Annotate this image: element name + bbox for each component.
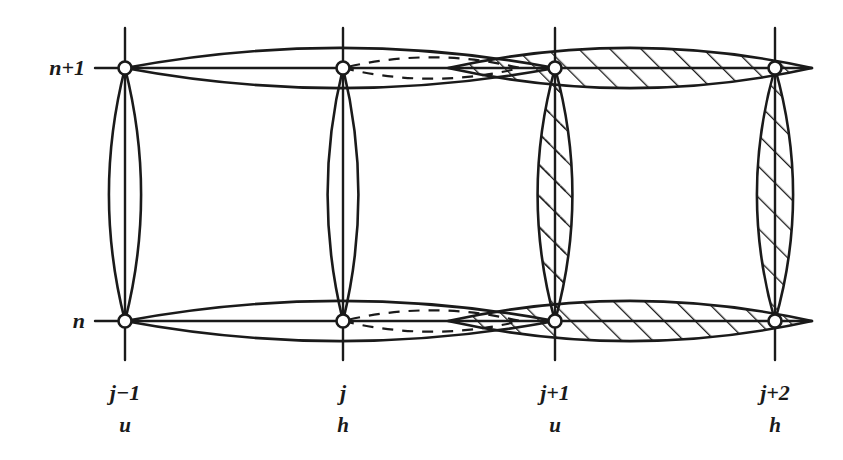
column-label-j: jh bbox=[337, 380, 349, 438]
column-label-index-j+2: j+2 bbox=[760, 380, 790, 405]
lattice-nodes bbox=[119, 62, 782, 328]
column-label-index-j-1: j−1 bbox=[110, 380, 140, 405]
node-j-plus-1-n bbox=[549, 315, 562, 328]
vertical-lens-j-plus-1-fill-dashed bbox=[538, 68, 573, 321]
column-label-type-j+2: h bbox=[760, 413, 790, 438]
row-label-n: n bbox=[73, 308, 85, 334]
node-j-plus-2-n-plus-1 bbox=[769, 62, 782, 75]
row-label-n+1: n+1 bbox=[49, 55, 85, 81]
lens-shapes bbox=[109, 48, 812, 341]
vertical-lens-j-plus-2-fill bbox=[757, 68, 793, 321]
column-label-j+1: j+1u bbox=[540, 380, 570, 438]
column-label-type-j: h bbox=[337, 413, 349, 438]
horizontal-lens-bottom-hatched bbox=[448, 301, 812, 341]
column-label-j-1: j−1u bbox=[110, 380, 140, 438]
figure-canvas: n+1nj−1ujhj+1uj+2h bbox=[0, 0, 843, 460]
node-j-plus-1-n-plus-1 bbox=[549, 62, 562, 75]
node-j-1-n-plus-1 bbox=[119, 62, 132, 75]
node-j-n-plus-1 bbox=[337, 62, 350, 75]
node-j-n bbox=[337, 315, 350, 328]
column-label-index-j+1: j+1 bbox=[540, 380, 570, 405]
node-j-plus-2-n bbox=[769, 315, 782, 328]
column-label-index-j: j bbox=[340, 380, 346, 405]
horizontal-lens-top-hatched bbox=[448, 48, 812, 88]
node-j-1-n bbox=[119, 315, 132, 328]
column-label-type-j+1: u bbox=[540, 413, 570, 438]
column-label-type-j-1: u bbox=[110, 413, 140, 438]
column-label-j+2: j+2h bbox=[760, 380, 790, 438]
